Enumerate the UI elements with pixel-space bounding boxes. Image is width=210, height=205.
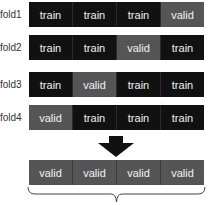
fold4-bar: valid train train train bbox=[29, 105, 204, 130]
down-arrow-icon bbox=[98, 136, 134, 157]
fold2-cell-3: valid bbox=[116, 35, 160, 60]
fold1-cell-3: train bbox=[116, 2, 160, 27]
fold3-cell-2: valid bbox=[72, 72, 116, 97]
fold3-label: fold3 bbox=[0, 72, 28, 97]
fold2-label: fold2 bbox=[0, 35, 28, 60]
fold2-cell-2: train bbox=[72, 35, 116, 60]
fold2-bar: train train valid train bbox=[29, 35, 204, 60]
fold4-cell-1: valid bbox=[29, 105, 72, 130]
fold3-bar: train valid train train bbox=[29, 72, 204, 97]
result-cell-2: valid bbox=[72, 160, 116, 185]
result-bar: valid valid valid valid bbox=[29, 160, 204, 185]
result-cell-1: valid bbox=[29, 160, 72, 185]
fold1-cell-1: train bbox=[29, 2, 72, 27]
fold2-cell-1: train bbox=[29, 35, 72, 60]
fold1-cell-4: valid bbox=[160, 2, 204, 27]
fold1-bar: train train train valid bbox=[29, 2, 204, 27]
fold4-cell-3: train bbox=[116, 105, 160, 130]
fold3-cell-3: train bbox=[116, 72, 160, 97]
fold2-cell-4: train bbox=[160, 35, 204, 60]
fold3-cell-4: train bbox=[160, 72, 204, 97]
result-cell-3: valid bbox=[116, 160, 160, 185]
fold1-label: fold1 bbox=[0, 2, 28, 27]
fold3-cell-1: train bbox=[29, 72, 72, 97]
curly-brace-icon bbox=[27, 186, 206, 204]
fold4-label: fold4 bbox=[0, 105, 28, 130]
fold4-cell-4: train bbox=[160, 105, 204, 130]
result-cell-4: valid bbox=[160, 160, 204, 185]
fold4-cell-2: train bbox=[72, 105, 116, 130]
fold1-cell-2: train bbox=[72, 2, 116, 27]
